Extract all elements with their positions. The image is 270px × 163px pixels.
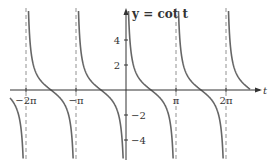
chart-title: y = cot t	[131, 7, 188, 21]
svg-text:−2π: −2π	[15, 95, 37, 106]
t-axis-arrow-icon	[255, 88, 262, 93]
svg-text:4: 4	[114, 35, 120, 46]
svg-text:−π: −π	[69, 95, 84, 106]
svg-text:2: 2	[114, 60, 120, 71]
cot-curves	[10, 11, 250, 158]
x-axis-label: t	[263, 85, 268, 96]
svg-text:π: π	[173, 95, 180, 106]
svg-text:2π: 2π	[220, 95, 233, 106]
svg-text:−4: −4	[131, 135, 146, 146]
cotangent-graph: t y = cot t −2π−ππ2π42−2−4	[0, 0, 270, 163]
svg-text:−2: −2	[131, 110, 146, 121]
